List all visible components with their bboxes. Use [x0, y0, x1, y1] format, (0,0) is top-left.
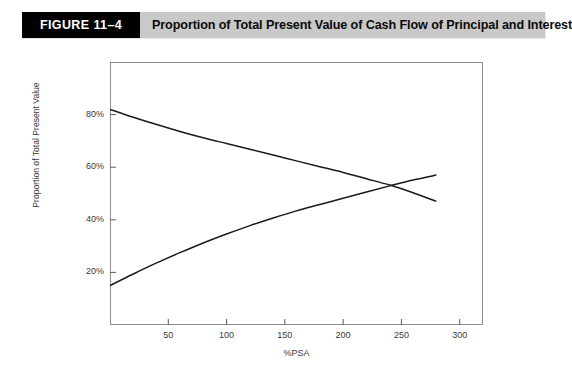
y-axis-tick-labels: 20%40%60%80%	[58, 40, 104, 340]
x-tick-label: 250	[381, 331, 421, 340]
y-tick-label: 80%	[62, 110, 104, 119]
x-tick-label: 300	[440, 331, 480, 340]
curve-interest	[110, 175, 436, 285]
x-tick-label: 150	[265, 331, 305, 340]
figure-header: FIGURE 11–4 Proportion of Total Present …	[22, 12, 545, 38]
x-tick-label: 200	[323, 331, 363, 340]
x-axis-tick-labels: 50100150200250300	[0, 331, 550, 345]
chart-plot-svg	[110, 62, 483, 325]
curve-principal	[110, 109, 436, 201]
x-tick-label: 50	[148, 331, 188, 340]
y-tick-label: 40%	[62, 215, 104, 224]
y-tick-label: 20%	[62, 267, 104, 276]
x-axis-ticks	[168, 319, 459, 325]
x-axis-title: %PSA	[110, 348, 483, 358]
x-tick-label: 100	[207, 331, 247, 340]
figure-title: Proportion of Total Present Value of Cas…	[140, 12, 572, 38]
y-tick-label: 60%	[62, 162, 104, 171]
y-axis-ticks	[110, 115, 116, 273]
figure-number-label: FIGURE 11–4	[22, 12, 140, 38]
chart-container: 20%40%60%80% 50100150200250300 Proportio…	[0, 40, 550, 374]
y-axis-title: Proportion of Total Present Value	[31, 65, 41, 225]
